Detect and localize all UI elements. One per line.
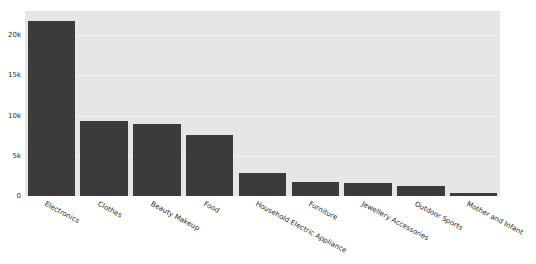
bar-food[interactable] [186,135,234,196]
x-axis-tick-label: Electronics [43,200,80,225]
x-axis-tick-label: Clothes [96,200,123,219]
bar-furniture[interactable] [292,182,340,196]
y-axis-tick-label: 0 [17,193,21,200]
y-axis-tick-label: 5k [12,152,21,159]
bar-chart: 05k10k15k20k ElectronicsClothesBeauty Ma… [0,0,536,264]
bar-clothes[interactable] [80,121,128,196]
plot-area [25,11,500,196]
y-axis-tick-label: 20k [8,32,21,39]
y-axis-tick-label: 10k [8,112,21,119]
bar-jewellery-accessories[interactable] [344,183,392,196]
bar-electronics[interactable] [28,21,76,196]
x-axis-tick-label: Beauty Makeup [149,200,201,233]
y-axis: 05k10k15k20k [0,0,25,264]
bars-container [25,11,500,196]
x-axis-tick-label: Household Electric Appliance [255,200,349,255]
x-axis-tick-label: Mother and Infant [466,200,525,237]
x-axis-tick-label: Outdoor Sports [413,200,464,232]
x-axis: ElectronicsClothesBeauty MakeupFoodHouse… [25,196,500,264]
x-axis-tick-label: Food [202,200,221,215]
bar-beauty-makeup[interactable] [133,124,181,196]
y-axis-tick-label: 15k [8,72,21,79]
bar-household-electric-appliance[interactable] [239,173,287,196]
bar-outdoor-sports[interactable] [397,186,445,196]
x-axis-tick-label: Furniture [307,200,339,222]
